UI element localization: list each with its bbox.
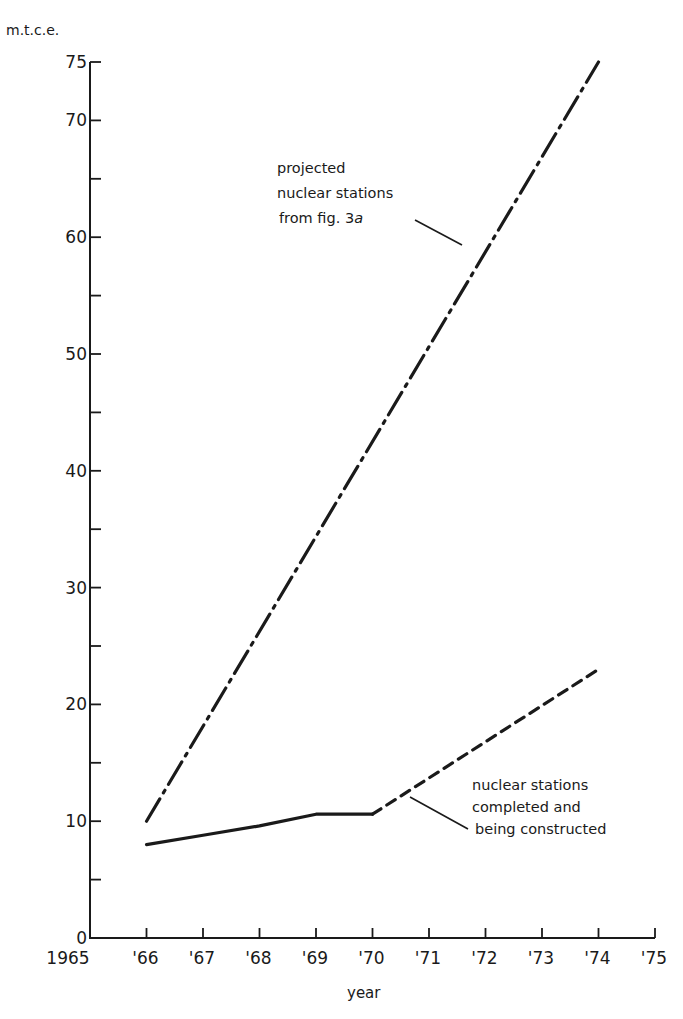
x-tick-label: '72 bbox=[471, 948, 497, 968]
annotation-projected: projected nuclear stations from fig. 3a bbox=[277, 160, 462, 245]
annotation-projected-leader bbox=[415, 220, 462, 245]
x-tick-label: '68 bbox=[245, 948, 271, 968]
x-axis-ticks: 1965'66'67'68'69'70'71'72'73'74'75 bbox=[46, 928, 667, 968]
y-tick-label: 40 bbox=[65, 461, 87, 481]
y-tick-label: 0 bbox=[76, 928, 87, 948]
x-tick-label: '74 bbox=[584, 948, 610, 968]
x-tick-label: 1965 bbox=[46, 948, 89, 968]
annotation-completed-line-1: nuclear stations bbox=[472, 777, 588, 793]
y-axis-unit-label: m.t.c.e. bbox=[6, 22, 59, 38]
y-tick-label: 30 bbox=[65, 578, 87, 598]
y-tick-label: 60 bbox=[65, 227, 87, 247]
y-tick-label: 10 bbox=[65, 811, 87, 831]
x-tick-label: '75 bbox=[641, 948, 667, 968]
series-line-solid bbox=[147, 814, 373, 844]
data-series bbox=[147, 62, 599, 845]
x-tick-label: '70 bbox=[358, 948, 384, 968]
annotation-completed-line-2: completed and bbox=[472, 799, 581, 815]
x-tick-label: '73 bbox=[528, 948, 554, 968]
y-tick-label: 75 bbox=[65, 52, 87, 72]
x-axis-label: year bbox=[347, 984, 381, 1002]
x-tick-label: '71 bbox=[415, 948, 441, 968]
annotation-completed: nuclear stations completed and being con… bbox=[410, 777, 606, 837]
annotation-projected-line-2: nuclear stations bbox=[277, 185, 393, 201]
x-tick-label: '66 bbox=[132, 948, 158, 968]
annotation-projected-line-1: projected bbox=[277, 160, 345, 176]
series-line-dash-dot bbox=[147, 62, 599, 821]
y-tick-label: 50 bbox=[65, 344, 87, 364]
annotation-completed-line-3: being constructed bbox=[475, 821, 606, 837]
x-tick-label: '69 bbox=[302, 948, 328, 968]
chart-canvas: m.t.c.e. 01020304050607075 1965'66'67'68… bbox=[0, 0, 683, 1019]
y-tick-label: 20 bbox=[65, 694, 87, 714]
annotation-completed-leader bbox=[410, 797, 468, 829]
y-tick-label: 70 bbox=[65, 110, 87, 130]
x-tick-label: '67 bbox=[189, 948, 215, 968]
annotation-projected-line-3: from fig. 3a bbox=[279, 210, 363, 226]
y-axis-ticks: 01020304050607075 bbox=[65, 52, 101, 948]
